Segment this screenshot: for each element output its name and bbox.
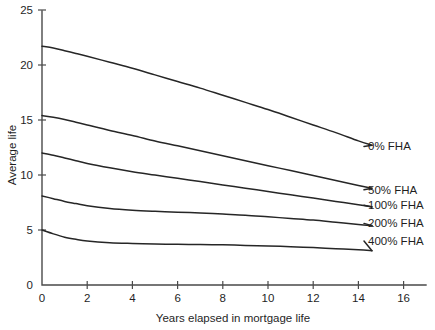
series-label-100-fha: 100% FHA [368, 199, 424, 211]
y-tick-label: 0 [27, 279, 33, 291]
x-tick-label: 6 [174, 292, 180, 304]
series-curve-200-fha [42, 196, 372, 226]
series-curve-0-fha [42, 46, 372, 145]
chart-svg: 0510152025 0246810121416 0% FHA50% FHA10… [0, 0, 435, 330]
x-tick-label: 2 [84, 292, 90, 304]
x-axis-title: Years elapsed in mortgage life [156, 312, 310, 324]
mortgage-average-life-chart: 0510152025 0246810121416 0% FHA50% FHA10… [0, 0, 435, 330]
y-tick-label: 25 [20, 4, 33, 16]
series-curves [42, 46, 372, 250]
tick-marks [38, 10, 404, 289]
series-label-0-fha: 0% FHA [368, 140, 411, 152]
x-axis-tick-labels: 0246810121416 [39, 292, 410, 304]
x-tick-label: 10 [262, 292, 275, 304]
x-tick-label: 12 [307, 292, 320, 304]
x-tick-label: 14 [352, 292, 365, 304]
series-curve-400-fha [42, 230, 372, 251]
x-tick-label: 16 [397, 292, 410, 304]
x-tick-label: 4 [129, 292, 136, 304]
y-tick-label: 15 [20, 114, 33, 126]
y-axis-title: Average life [6, 125, 18, 186]
y-axis-tick-labels: 0510152025 [20, 4, 33, 291]
series-curve-50-fha [42, 116, 372, 189]
x-tick-label: 0 [39, 292, 45, 304]
series-label-50-fha: 50% FHA [368, 184, 418, 196]
x-tick-label: 8 [220, 292, 226, 304]
y-tick-label: 5 [27, 224, 33, 236]
series-label-400-fha: 400% FHA [368, 235, 424, 247]
series-labels: 0% FHA50% FHA100% FHA200% FHA400% FHA [368, 140, 424, 247]
series-curve-100-fha [42, 153, 372, 207]
y-tick-label: 20 [20, 59, 33, 71]
series-label-200-fha: 200% FHA [368, 217, 424, 229]
y-tick-label: 10 [20, 169, 33, 181]
